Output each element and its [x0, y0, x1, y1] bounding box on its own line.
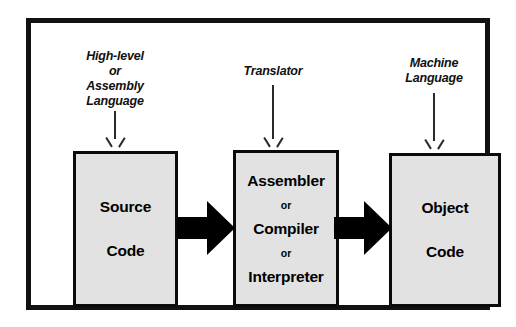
down-arrow-icon-machine	[412, 93, 456, 149]
box-line: Code	[426, 243, 464, 261]
box-line: Object	[421, 199, 468, 217]
box-line-connector: or	[281, 199, 292, 211]
arrow-head	[268, 138, 279, 147]
arrow-shaft	[114, 111, 116, 139]
translator-box: Assembler or Compiler or Interpreter	[233, 150, 339, 307]
flow-arrow-right-icon-source-to-translator	[177, 201, 235, 255]
box-line: Code	[107, 242, 145, 260]
machine-language-caption: Machine Language	[371, 56, 497, 86]
arrow-head	[364, 201, 392, 255]
box-line: Interpreter	[248, 268, 323, 286]
arrow-head	[207, 201, 235, 255]
arrow-head	[110, 138, 121, 147]
arrow-shaft	[433, 93, 435, 141]
diagram-canvas: High-level or Assembly Language Translat…	[0, 0, 516, 327]
arrow-tail	[177, 217, 211, 239]
translator-caption: Translator	[213, 64, 333, 79]
source-language-caption: High-level or Assembly Language	[55, 49, 175, 109]
arrow-head	[429, 140, 440, 149]
down-arrow-icon-source	[93, 111, 137, 147]
diagram-frame: High-level or Assembly Language Translat…	[26, 18, 490, 310]
box-line-connector: or	[281, 247, 292, 259]
down-arrow-icon-translator	[251, 85, 295, 147]
object-code-box: Object Code	[389, 153, 501, 307]
arrow-tail	[334, 217, 368, 239]
box-line: Compiler	[253, 220, 319, 238]
box-line: Source	[100, 198, 151, 216]
flow-arrow-right-icon-translator-to-object	[334, 201, 392, 255]
source-code-box: Source Code	[73, 151, 178, 307]
arrow-shaft	[272, 85, 274, 139]
box-line: Assembler	[247, 172, 324, 190]
